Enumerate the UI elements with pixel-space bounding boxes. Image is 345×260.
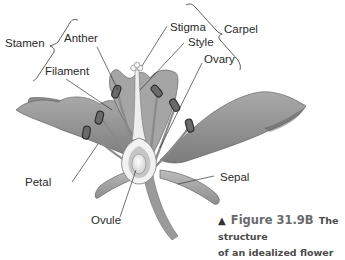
label-ovule: Ovule	[91, 215, 121, 227]
ovule	[132, 154, 146, 174]
label-stamen: Stamen	[5, 38, 45, 50]
label-sepal: Sepal	[220, 172, 249, 184]
label-petal: Petal	[25, 177, 51, 189]
figure-caption: ▲ Figure 31.9B The structure of an ideal…	[218, 212, 345, 260]
label-stigma: Stigma	[170, 22, 206, 34]
label-style: Style	[188, 37, 214, 49]
label-anther: Anther	[64, 33, 98, 45]
caption-text-line2: of an idealized flower	[218, 247, 333, 258]
label-ovary: Ovary	[204, 54, 235, 66]
petal-right	[160, 92, 306, 163]
sepal-right	[160, 170, 219, 204]
figure-number: Figure 31.9B	[231, 213, 314, 227]
triangle-marker-icon: ▲	[218, 215, 226, 226]
stigma	[131, 62, 143, 71]
label-carpel: Carpel	[224, 24, 258, 36]
label-filament: Filament	[45, 66, 89, 78]
